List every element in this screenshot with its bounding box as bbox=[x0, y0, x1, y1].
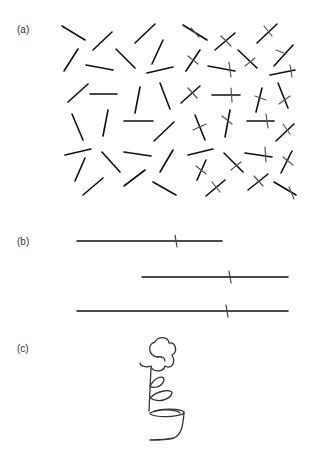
target-line bbox=[195, 115, 205, 140]
target-line bbox=[86, 65, 113, 70]
cancellation-mark bbox=[265, 147, 266, 162]
target-line bbox=[124, 170, 145, 186]
target-line bbox=[65, 149, 91, 155]
target-line bbox=[147, 67, 173, 73]
cancellation-mark bbox=[276, 50, 286, 54]
target-line bbox=[124, 152, 151, 156]
target-line bbox=[102, 152, 120, 172]
target-line bbox=[103, 110, 108, 136]
target-line bbox=[62, 26, 85, 40]
target-line bbox=[208, 66, 235, 71]
cancellation-mark bbox=[188, 56, 198, 64]
target-line bbox=[64, 49, 78, 71]
target-line bbox=[160, 150, 173, 172]
panel-b-label: (b) bbox=[17, 236, 29, 247]
target-line bbox=[72, 114, 83, 140]
target-line bbox=[152, 40, 163, 64]
panel-a-label: (a) bbox=[17, 24, 29, 35]
target-line bbox=[256, 88, 262, 112]
target-line bbox=[225, 110, 230, 137]
panel-a-segments bbox=[62, 24, 296, 199]
target-line bbox=[68, 84, 88, 102]
target-line bbox=[281, 151, 292, 173]
target-line bbox=[206, 180, 225, 196]
figure: (a) (b) (c) bbox=[0, 0, 313, 466]
cancellation-mark bbox=[191, 28, 199, 37]
target-line bbox=[215, 33, 235, 50]
target-line bbox=[160, 83, 170, 109]
panel-b-lines bbox=[77, 235, 288, 317]
target-line bbox=[188, 149, 213, 155]
panel-c-flower-drawing bbox=[140, 338, 184, 440]
panel-c-label: (c) bbox=[17, 343, 29, 354]
target-line bbox=[181, 86, 200, 103]
target-line bbox=[135, 87, 140, 113]
target-line bbox=[274, 182, 296, 195]
target-line bbox=[257, 24, 277, 43]
target-line bbox=[116, 49, 135, 68]
target-line bbox=[75, 158, 85, 181]
target-line bbox=[154, 122, 174, 141]
target-line bbox=[153, 182, 176, 195]
target-line bbox=[93, 32, 112, 50]
target-line bbox=[274, 45, 293, 66]
target-line bbox=[83, 178, 103, 195]
target-line bbox=[245, 153, 272, 157]
target-line bbox=[135, 24, 155, 43]
target-line bbox=[248, 174, 268, 190]
cancellation-mark bbox=[231, 88, 232, 102]
